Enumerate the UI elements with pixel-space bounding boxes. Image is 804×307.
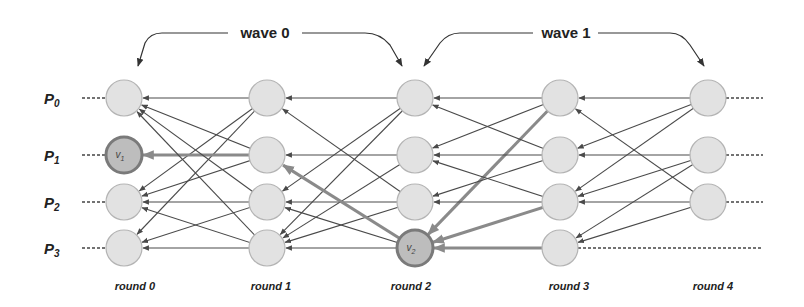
vertex-v2: v2 bbox=[397, 230, 433, 266]
vertex-node bbox=[542, 230, 578, 266]
process-labels: P0 P1 P2 P3 bbox=[44, 90, 60, 259]
vertex-node bbox=[106, 184, 142, 220]
round-label-1: round 1 bbox=[251, 280, 291, 292]
highlight-edge bbox=[283, 165, 415, 248]
edge bbox=[280, 98, 415, 234]
edge bbox=[578, 98, 708, 148]
round-label-0: round 0 bbox=[115, 280, 156, 292]
round-label-2: round 2 bbox=[391, 280, 431, 292]
vertex-node bbox=[690, 80, 726, 116]
vertex-node bbox=[542, 184, 578, 220]
wave-0-bracket: wave 0 bbox=[138, 24, 402, 66]
vertex-node bbox=[690, 184, 726, 220]
process-label-p0: P0 bbox=[44, 90, 60, 109]
edge bbox=[142, 202, 267, 242]
edge bbox=[576, 155, 708, 238]
vertex-node bbox=[397, 80, 433, 116]
edge bbox=[433, 105, 560, 155]
edge bbox=[142, 105, 267, 155]
round-label-3: round 3 bbox=[549, 280, 589, 292]
vertex-node bbox=[542, 137, 578, 173]
vertex-node bbox=[249, 184, 285, 220]
process-label-p1: P1 bbox=[44, 147, 60, 166]
edge bbox=[578, 202, 708, 242]
vertex-node bbox=[249, 80, 285, 116]
wave-1-bracket: wave 1 bbox=[424, 24, 704, 66]
process-lines bbox=[82, 98, 763, 248]
vertex-v1: v1 bbox=[106, 137, 142, 173]
vertex-node bbox=[249, 230, 285, 266]
vertex-node bbox=[690, 137, 726, 173]
edge bbox=[137, 98, 267, 234]
wave-0-label: wave 0 bbox=[239, 24, 289, 41]
vertex-node bbox=[542, 80, 578, 116]
process-label-p3: P3 bbox=[44, 240, 60, 259]
vertex-node bbox=[106, 230, 142, 266]
vertex-node bbox=[397, 184, 433, 220]
dag-diagram: wave 0 wave 1 P0 P1 P2 P3 v1v2 round 0 r… bbox=[0, 0, 804, 307]
wave-1-label: wave 1 bbox=[540, 24, 590, 41]
process-label-p2: P2 bbox=[44, 194, 60, 213]
round-label-4: round 4 bbox=[693, 280, 733, 292]
edge bbox=[433, 155, 560, 196]
edges bbox=[137, 98, 708, 248]
edge bbox=[285, 208, 415, 248]
edge bbox=[283, 155, 415, 238]
vertex-node bbox=[397, 137, 433, 173]
edge bbox=[433, 161, 560, 202]
edge bbox=[576, 98, 708, 191]
vertex-node bbox=[249, 137, 285, 173]
vertex-node bbox=[106, 80, 142, 116]
edge bbox=[433, 98, 560, 148]
nodes: v1v2 bbox=[106, 80, 726, 266]
round-labels: round 0 round 1 round 2 round 3 round 4 bbox=[115, 280, 733, 292]
